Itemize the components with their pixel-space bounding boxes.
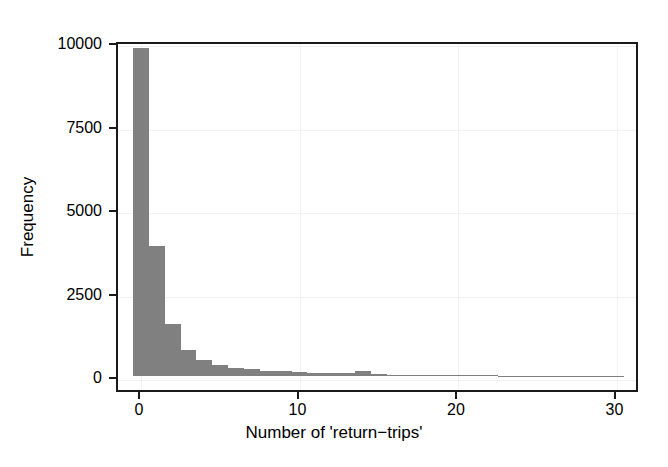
x-axis-tick-label: 20: [431, 401, 481, 419]
x-axis-title: Number of 'return−trips': [0, 423, 668, 443]
x-axis-tick: [138, 392, 140, 399]
bar: [228, 368, 244, 376]
gridline: [617, 44, 618, 390]
gridline: [118, 46, 636, 47]
bar: [323, 373, 339, 376]
y-axis-tick: [109, 210, 116, 212]
bar: [212, 365, 228, 376]
x-axis-tick: [614, 392, 616, 399]
y-axis-tick: [109, 127, 116, 129]
bar: [418, 375, 434, 376]
gridline: [458, 44, 459, 390]
bar: [196, 360, 212, 376]
bar: [307, 373, 323, 377]
x-axis-tick-label: 0: [114, 401, 164, 419]
y-axis-tick: [109, 294, 116, 296]
gridline: [118, 297, 636, 298]
gridline: [118, 380, 636, 381]
bar: [355, 371, 371, 376]
bar: [466, 375, 482, 376]
y-axis-title-text: Frequency: [18, 176, 38, 256]
x-axis-tick-label: 10: [273, 401, 323, 419]
x-axis-tick: [297, 392, 299, 399]
gridline: [300, 44, 301, 390]
bar: [133, 48, 149, 376]
bar: [403, 375, 419, 376]
y-axis-tick-label: 5000: [66, 203, 102, 219]
bar: [450, 375, 466, 376]
y-axis-tick-label: 10000: [58, 36, 103, 52]
bar: [165, 324, 181, 376]
y-axis-tick: [109, 377, 116, 379]
bar: [434, 375, 450, 376]
bar: [371, 374, 387, 376]
bar: [181, 350, 197, 376]
histogram-figure: 025005000750010000 0102030 Number of 're…: [0, 0, 668, 467]
bar: [339, 373, 355, 376]
bar: [387, 375, 403, 377]
y-axis-tick-label: 0: [93, 370, 102, 386]
x-axis-tick: [455, 392, 457, 399]
bar: [260, 371, 276, 377]
x-axis-tick-label: 30: [590, 401, 640, 419]
bar: [276, 371, 292, 376]
bar: [498, 376, 514, 377]
bar: [292, 372, 308, 376]
y-axis-tick-label: 7500: [66, 120, 102, 136]
y-axis-title: Frequency: [14, 0, 42, 467]
gridline: [118, 213, 636, 214]
bar: [482, 375, 498, 376]
plot-area: [116, 42, 638, 392]
gridline: [118, 130, 636, 131]
y-axis-tick: [109, 43, 116, 45]
bar: [149, 246, 165, 376]
y-axis-tick-label: 2500: [66, 287, 102, 303]
bar: [244, 369, 260, 376]
